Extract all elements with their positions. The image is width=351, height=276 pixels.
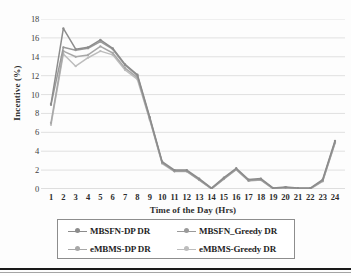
legend-marker-icon [68, 226, 87, 236]
x-axis-title: Time of the Day (Hrs) [41, 205, 345, 215]
y-axis-tick-label: 6 [35, 127, 39, 137]
series-point [173, 169, 175, 171]
series-point [87, 57, 89, 59]
legend-item-embms-greedy-dr: eMBMS-Greedy DR [173, 240, 294, 258]
legend-row: MBSFN-DP DR MBSFN_Greedy DR [58, 222, 294, 240]
plot-area [41, 19, 345, 189]
y-axis-title: Incentive (%) [12, 45, 22, 141]
series-line [51, 46, 335, 188]
y-axis-tick-label: 0 [35, 184, 39, 194]
page-bottom-rule-secondary [0, 272, 351, 273]
y-axis-tick-label: 8 [35, 108, 39, 118]
y-axis-tick-label: 18 [31, 14, 39, 24]
series-point [112, 47, 114, 49]
series-point [223, 177, 225, 179]
chart-legend: MBSFN-DP DR MBSFN_Greedy DR eMBMS-DP DR … [57, 219, 295, 259]
y-axis-tick-label: 10 [31, 90, 39, 100]
series-point [50, 122, 52, 124]
y-axis-tick-label: 2 [35, 165, 39, 175]
series-point [124, 67, 126, 69]
series-point [50, 103, 52, 105]
series-point [149, 116, 151, 118]
series-point [87, 54, 89, 56]
series-point [112, 52, 114, 54]
legend-item-label: eMBMS-Greedy DR [199, 244, 276, 254]
series-point [235, 167, 237, 169]
x-axis-tick-label: 24 [328, 192, 342, 203]
x-axis-tick-labels: 123456789101112131415161718192021222324 [41, 192, 345, 205]
legend-item-mbsfn-greedy-dr: MBSFN_Greedy DR [173, 222, 294, 240]
series-point [334, 140, 336, 142]
series-point [186, 169, 188, 171]
series-point [284, 186, 286, 188]
series-point [136, 74, 138, 76]
series-point [297, 187, 299, 189]
y-axis-tick-label: 14 [31, 52, 39, 62]
page-bottom-rule [0, 268, 351, 270]
series-point [62, 46, 64, 48]
series-line [51, 28, 335, 188]
series-point [247, 178, 249, 180]
chart-figure: 024681012141618 Incentive (%) 1234567891… [0, 0, 351, 276]
legend-marker-icon [177, 244, 196, 254]
legend-item-label: MBSFN-DP DR [90, 226, 150, 236]
series-point [198, 177, 200, 179]
series-point [75, 65, 77, 67]
legend-item-label: eMBMS-DP DR [90, 244, 151, 254]
y-axis-tick-label: 12 [31, 71, 39, 81]
series-point [87, 46, 89, 48]
series-point [161, 160, 163, 162]
legend-marker-icon [68, 244, 87, 254]
series-point [322, 178, 324, 180]
series-point [62, 27, 64, 29]
series-point [99, 50, 101, 52]
legend-item-mbsfn-dp-dr: MBSFN-DP DR [58, 222, 173, 240]
series-point [99, 39, 101, 41]
legend-item-label: MBSFN_Greedy DR [199, 226, 277, 236]
series-line [51, 51, 335, 189]
series-point [124, 63, 126, 65]
series-point [75, 48, 77, 50]
series-line [51, 42, 335, 189]
legend-marker-icon [177, 226, 196, 236]
y-axis-tick-label: 4 [35, 146, 39, 156]
series-point [99, 45, 101, 47]
series-point [75, 56, 77, 58]
legend-item-embms-dp-dr: eMBMS-DP DR [58, 240, 173, 258]
line-chart-svg [41, 19, 345, 189]
y-axis-tick-label: 16 [31, 33, 39, 43]
y-axis-tick-labels: 024681012141618 [22, 12, 39, 196]
series-point [260, 177, 262, 179]
legend-row: eMBMS-DP DR eMBMS-Greedy DR [58, 240, 294, 258]
